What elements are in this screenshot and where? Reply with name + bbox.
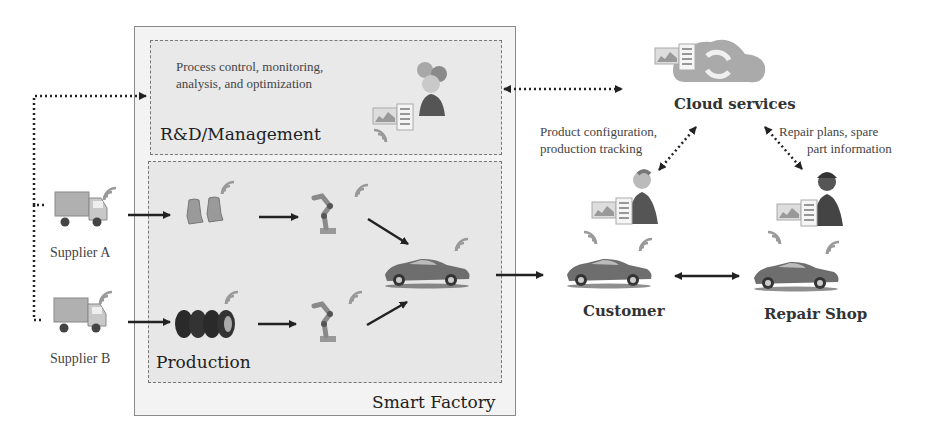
customer-person-icon bbox=[592, 171, 658, 224]
car-icon-customer bbox=[567, 259, 652, 289]
management-team-icon bbox=[373, 62, 447, 130]
cloud-services-icon bbox=[655, 40, 765, 83]
truck-icon-supplier-b bbox=[54, 298, 106, 333]
car-icon-repair-shop bbox=[754, 262, 839, 292]
tires-icon bbox=[175, 310, 235, 338]
robot-arm-icon-1 bbox=[314, 196, 336, 234]
diagram-connectors bbox=[0, 0, 932, 445]
repair-technician-icon bbox=[777, 172, 843, 226]
truck-icon-supplier-a bbox=[55, 192, 107, 227]
car-icon-factory bbox=[385, 259, 470, 289]
car-seats-icon bbox=[187, 197, 223, 224]
robot-arm-icon-2 bbox=[314, 304, 336, 342]
